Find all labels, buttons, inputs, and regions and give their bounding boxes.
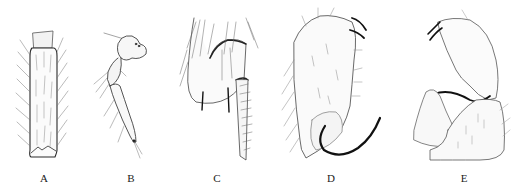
figure: A B C D E	[0, 0, 522, 190]
panel-e-drawing	[414, 10, 510, 160]
panel-label-c: C	[213, 171, 220, 185]
panel-a-drawing	[16, 31, 68, 157]
panel-c-drawing	[180, 18, 258, 160]
panel-b-drawing	[94, 33, 146, 158]
panel-label-b: B	[127, 171, 134, 185]
panel-label-d: D	[327, 171, 335, 185]
panel-label-e: E	[461, 171, 468, 185]
panel-d-drawing	[282, 8, 380, 158]
figure-drawings	[0, 0, 522, 190]
panel-label-a: A	[40, 171, 48, 185]
